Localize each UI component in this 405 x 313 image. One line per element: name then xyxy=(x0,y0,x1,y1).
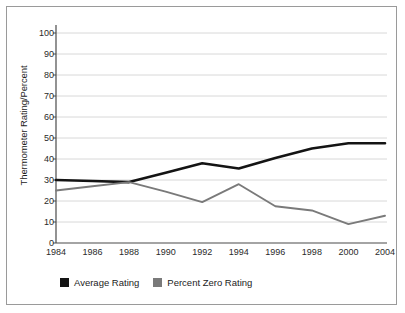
y-tick-label: 30 xyxy=(28,175,54,185)
y-tick-label: 90 xyxy=(28,49,54,59)
y-tick-label: 50 xyxy=(28,133,54,143)
x-tick-label: 1988 xyxy=(109,247,149,257)
x-tick-label: 1986 xyxy=(73,247,113,257)
x-tick-label: 2004 xyxy=(365,247,405,257)
axis-lines xyxy=(53,25,387,243)
y-axis-tick-labels: 1009080706050403020100 xyxy=(28,0,54,313)
series-line-average-rating xyxy=(56,143,385,182)
legend-label: Percent Zero Rating xyxy=(167,277,252,288)
x-tick-label: 1998 xyxy=(292,247,332,257)
x-tick-label: 1996 xyxy=(255,247,295,257)
y-tick-label: 10 xyxy=(28,217,54,227)
y-tick-label: 20 xyxy=(28,196,54,206)
plot-canvas xyxy=(0,0,405,313)
x-tick-label: 1994 xyxy=(219,247,259,257)
y-tick-label: 60 xyxy=(28,112,54,122)
x-tick-label: 1990 xyxy=(146,247,186,257)
x-tick-label: 1984 xyxy=(36,247,76,257)
chart-legend: Average RatingPercent Zero Rating xyxy=(60,277,252,288)
y-tick-label: 100 xyxy=(28,28,54,38)
data-series-group xyxy=(56,143,385,224)
plot-area-wrapper: Thermometer Rating/Percent 1009080706050… xyxy=(0,0,405,313)
series-line-percent-zero-rating xyxy=(56,182,385,224)
legend-swatch-icon xyxy=(60,278,69,287)
legend-item[interactable]: Percent Zero Rating xyxy=(153,277,252,288)
legend-swatch-icon xyxy=(153,278,162,287)
y-axis-title: Thermometer Rating/Percent xyxy=(18,56,29,196)
legend-label: Average Rating xyxy=(74,277,139,288)
y-tick-label: 70 xyxy=(28,91,54,101)
x-tick-label: 1992 xyxy=(182,247,222,257)
chart-figure: Thermometer Rating/Percent 1009080706050… xyxy=(0,0,405,313)
x-axis-tick-labels: 1984198619881990199219941996199820002004 xyxy=(0,247,405,263)
x-tick-label: 2000 xyxy=(328,247,368,257)
y-tick-label: 40 xyxy=(28,154,54,164)
y-tick-label: 80 xyxy=(28,70,54,80)
legend-item[interactable]: Average Rating xyxy=(60,277,139,288)
